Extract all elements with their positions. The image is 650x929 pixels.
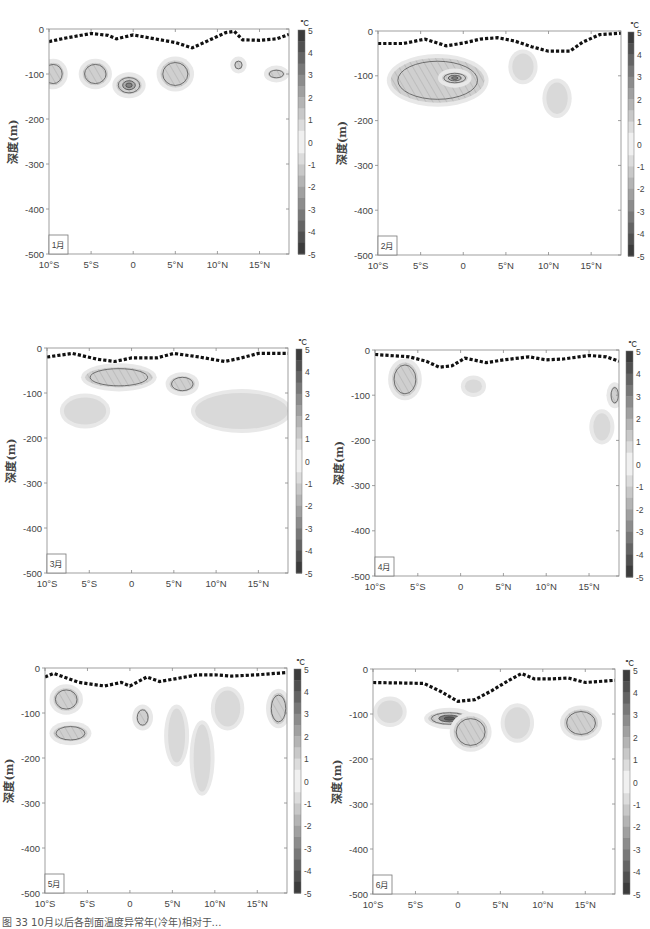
panel-apr: 0-100-200-300-400-50010°S5°S05°N10°N15°N… (325, 320, 650, 610)
colorbar-segment (626, 419, 633, 431)
y-tick-label: -500 (354, 250, 373, 261)
x-tick-label: 15°N (581, 260, 602, 271)
x-tick-label: 5°S (408, 899, 423, 910)
colorbar-tick-label: -5 (633, 890, 641, 900)
colorbar-segment (294, 871, 301, 883)
colorbar-segment (623, 838, 630, 850)
colorbar-segment (623, 670, 630, 682)
colorbar-segment (296, 371, 302, 383)
colorbar-segment (296, 483, 302, 495)
colorbar-tick-label: -3 (308, 205, 316, 215)
y-tick-label: -400 (25, 204, 44, 215)
colorbar-unit: ℃ (625, 659, 634, 668)
x-tick-label: 5°N (166, 578, 182, 589)
anomaly-region (377, 701, 402, 724)
colorbar-unit: ℃ (628, 340, 637, 349)
colorbar-segment (294, 781, 301, 793)
month-label: 5月 (48, 879, 62, 889)
anomaly-region (454, 716, 488, 748)
y-tick-label: -500 (21, 888, 40, 899)
y-tick-label: -100 (351, 390, 370, 401)
colorbar-segment (294, 747, 301, 759)
colorbar-segment (298, 97, 305, 109)
anomaly-region (564, 710, 598, 737)
y-tick-label: 0 (39, 24, 44, 35)
x-tick-label: 10°N (204, 898, 225, 909)
x-tick-label: 10°S (365, 581, 386, 592)
colorbar-segment (628, 155, 634, 167)
colorbar-tick-label: -3 (637, 207, 645, 217)
colorbar-tick-label: 4 (305, 367, 310, 377)
anomaly-region (53, 725, 87, 741)
colorbar-tick-label: 1 (637, 117, 642, 127)
colorbar-segment (296, 517, 302, 529)
colorbar-tick-label: -2 (633, 822, 641, 832)
colorbar-tick-label: -1 (636, 482, 644, 492)
y-tick-label: -500 (25, 249, 44, 260)
anomaly-region (392, 362, 418, 396)
y-axis-label: 深度(m) (335, 121, 349, 165)
anomaly-region (195, 393, 288, 429)
colorbar-segment (294, 680, 301, 692)
colorbar-tick-label: 2 (636, 414, 641, 424)
x-tick-label: 5°S (413, 260, 428, 271)
x-tick-label: 0 (458, 581, 463, 592)
colorbar-segment (628, 43, 634, 55)
colorbar-segment (626, 532, 633, 544)
x-tick-label: 10°S (37, 578, 58, 589)
colorbar-segment (298, 108, 305, 120)
chart-svg: 0-100-200-300-400-50010°S5°S05°N10°N15°N… (325, 640, 650, 923)
colorbar-tick-label: -2 (308, 182, 316, 192)
colorbar-segment (294, 826, 301, 838)
y-tick-label: 0 (363, 664, 368, 675)
colorbar-tick-label: 0 (637, 140, 642, 150)
colorbar-segment (628, 211, 634, 223)
x-tick-label: 0 (455, 899, 460, 910)
anomaly-region (161, 61, 190, 88)
chart-svg: 0-100-200-300-400-50010°S5°S05°N10°N15°N… (0, 640, 325, 923)
colorbar-tick-label: 0 (305, 457, 310, 467)
plot-area (373, 669, 615, 894)
colorbar-segment (296, 405, 302, 417)
colorbar-segment (296, 539, 302, 551)
colorbar-tick-label: 1 (308, 115, 313, 125)
colorbar-tick-label: 0 (633, 778, 638, 788)
colorbar-segment (296, 427, 302, 439)
colorbar-tick-label: -5 (308, 250, 316, 260)
anomaly-region (170, 376, 195, 392)
chart-svg: 0-100-200-300-400-50010°S5°S05°N10°N15°N… (0, 0, 325, 290)
colorbar-segment (298, 142, 305, 154)
y-tick-label: 0 (368, 26, 373, 37)
x-tick-label: 10°S (35, 898, 56, 909)
colorbar-segment (294, 837, 301, 849)
colorbar-unit: ℃ (296, 658, 305, 667)
y-tick-label: 0 (35, 663, 40, 674)
colorbar-segment (294, 703, 301, 715)
colorbar-unit: ℃ (300, 19, 309, 28)
y-tick-label: 0 (365, 345, 370, 356)
y-tick-label: -200 (349, 754, 368, 765)
colorbar-segment (296, 450, 302, 462)
x-tick-label: 10°N (206, 578, 227, 589)
colorbar-segment (296, 495, 302, 507)
y-tick-label: -100 (25, 69, 44, 80)
colorbar-segment (298, 86, 305, 98)
colorbar-segment (298, 75, 305, 87)
colorbar-segment (623, 883, 630, 895)
colorbar-segment (294, 882, 301, 894)
x-tick-label: 0 (129, 578, 134, 589)
chart-svg: 0-100-200-300-400-50010°S5°S05°N10°N15°N… (325, 0, 650, 290)
colorbar-segment (298, 52, 305, 64)
colorbar-segment (623, 782, 630, 794)
colorbar-segment (294, 759, 301, 771)
colorbar-segment (623, 771, 630, 783)
colorbar-segment (298, 187, 305, 199)
colorbar-segment (626, 475, 633, 487)
colorbar-segment (626, 566, 633, 578)
colorbar-segment (626, 509, 633, 521)
colorbar-segment (628, 178, 634, 190)
colorbar-segment (623, 872, 630, 884)
colorbar-segment (626, 441, 633, 453)
colorbar-tick-label: -3 (633, 845, 641, 855)
y-tick-label: -100 (21, 708, 40, 719)
